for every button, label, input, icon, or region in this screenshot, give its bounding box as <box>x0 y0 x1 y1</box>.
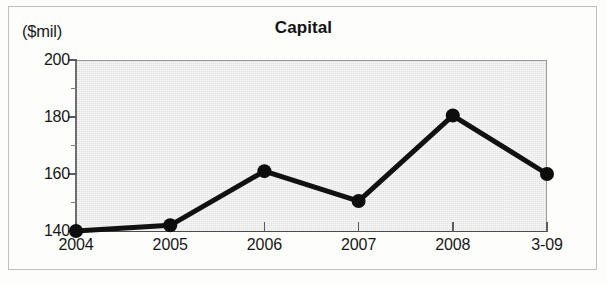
x-tick-label: 2005 <box>153 236 188 254</box>
x-tick <box>358 222 360 232</box>
x-tick <box>75 222 77 232</box>
y-tick-label: 160 <box>14 165 70 183</box>
x-tick <box>169 222 171 232</box>
y-tick-minor <box>71 88 77 90</box>
chart-figure: ($mil) Capital 140160180200 200420052006… <box>0 0 607 285</box>
x-tick <box>546 222 548 232</box>
y-tick-minor <box>71 202 77 204</box>
x-tick <box>452 222 454 232</box>
x-tick-label: 2004 <box>58 236 93 254</box>
x-tick-label: 2007 <box>341 236 376 254</box>
x-tick-label: 2008 <box>435 236 470 254</box>
x-tick-label: 3-09 <box>531 236 563 254</box>
plot-area <box>76 60 547 231</box>
y-tick-minor <box>71 145 77 147</box>
x-tick <box>264 222 266 232</box>
y-tick-label: 200 <box>14 51 70 69</box>
y-tick-label: 180 <box>14 108 70 126</box>
x-tick-label: 2006 <box>247 236 282 254</box>
x-axis-line <box>75 231 548 233</box>
chart-title: Capital <box>0 18 607 38</box>
